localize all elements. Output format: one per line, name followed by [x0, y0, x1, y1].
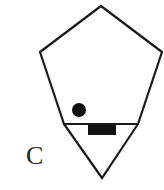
pentagon-outline [40, 6, 162, 124]
figure-label: C [26, 141, 43, 170]
black-rectangle [88, 125, 116, 135]
black-dot [72, 103, 86, 117]
kite-diagram: C [0, 0, 164, 190]
